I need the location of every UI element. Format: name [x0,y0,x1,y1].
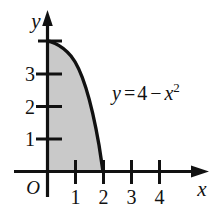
figure-container: 1 2 3 4 1 2 3 O y x y=4−x2 [0,0,219,213]
equation-minus: − [150,82,161,104]
x-axis-arrowhead [191,166,209,178]
y-axis-arrowhead [42,10,53,26]
y-axis-label: y [29,9,41,33]
equation-lhs: y [110,82,121,105]
x-tick-label-4: 4 [155,186,165,208]
y-tick-label-1: 1 [25,128,35,150]
equation-exponent: 2 [173,80,180,95]
equation-label: y=4−x2 [110,80,180,105]
origin-label: O [26,177,40,198]
equation-equals: = [124,82,135,104]
x-tick-label-2: 2 [99,186,109,208]
x-axis-label: x [196,177,207,201]
y-tick-label-3: 3 [25,63,35,85]
equation-constant: 4 [137,82,147,104]
equation-variable: x [163,82,173,104]
x-tick-label-1: 1 [71,186,81,208]
parabola-figure: 1 2 3 4 1 2 3 O y x y=4−x2 [0,0,219,213]
y-tick-label-2: 2 [25,96,35,118]
x-tick-label-3: 3 [127,186,137,208]
